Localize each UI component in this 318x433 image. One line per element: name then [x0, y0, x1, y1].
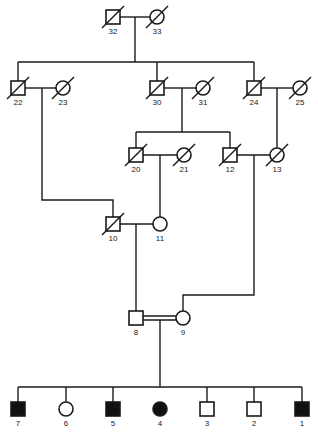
individual-30[interactable]: 30 — [146, 77, 168, 107]
individual-label: 10 — [109, 234, 118, 243]
individual-label: 30 — [153, 98, 162, 107]
individual-32[interactable]: 32 — [102, 6, 124, 36]
individual-label: 3 — [205, 419, 210, 428]
pedigree-lines — [18, 17, 302, 402]
individual-7[interactable]: 7 — [11, 402, 25, 428]
pedigree-chart: 32 33 22 23 30 31 24 25 20 — [0, 0, 318, 433]
female-symbol — [59, 402, 73, 416]
individual-label: 25 — [296, 98, 305, 107]
individual-label: 9 — [181, 328, 186, 337]
individual-21[interactable]: 21 — [173, 144, 195, 174]
individual-label: 6 — [64, 419, 69, 428]
individual-22[interactable]: 22 — [7, 77, 29, 107]
individual-24[interactable]: 24 — [243, 77, 265, 107]
male-symbol — [200, 402, 214, 416]
individual-label: 24 — [250, 98, 259, 107]
individual-1[interactable]: 1 — [295, 402, 309, 428]
individual-20[interactable]: 20 — [125, 144, 147, 174]
individual-9[interactable]: 9 — [176, 311, 190, 337]
individual-label: 31 — [199, 98, 208, 107]
individual-13[interactable]: 13 — [266, 144, 288, 174]
individual-25[interactable]: 25 — [289, 77, 311, 107]
individual-4[interactable]: 4 — [153, 402, 167, 428]
individual-label: 22 — [14, 98, 23, 107]
individual-label: 5 — [111, 419, 116, 428]
descent-line-12-13 — [183, 155, 254, 311]
individual-label: 32 — [109, 27, 118, 36]
individual-label: 8 — [134, 328, 139, 337]
individual-6[interactable]: 6 — [59, 402, 73, 428]
individual-label: 11 — [156, 234, 165, 243]
affected-male-symbol — [11, 402, 25, 416]
affected-female-symbol — [153, 402, 167, 416]
individual-10[interactable]: 10 — [102, 213, 124, 243]
female-symbol — [153, 217, 167, 231]
individual-12[interactable]: 12 — [219, 144, 241, 174]
individual-label: 13 — [273, 165, 282, 174]
male-symbol — [129, 311, 143, 325]
individual-label: 7 — [16, 419, 21, 428]
individual-23[interactable]: 23 — [52, 77, 74, 107]
affected-male-symbol — [106, 402, 120, 416]
individual-label: 4 — [158, 419, 163, 428]
individual-11[interactable]: 11 — [153, 217, 167, 243]
individual-label: 2 — [252, 419, 257, 428]
individual-33[interactable]: 33 — [146, 6, 168, 36]
individual-label: 21 — [180, 165, 189, 174]
individual-label: 20 — [132, 165, 141, 174]
individual-label: 1 — [300, 419, 305, 428]
female-symbol — [176, 311, 190, 325]
individual-2[interactable]: 2 — [247, 402, 261, 428]
individual-label: 12 — [226, 165, 235, 174]
individual-label: 33 — [153, 27, 162, 36]
individual-5[interactable]: 5 — [106, 402, 120, 428]
individual-3[interactable]: 3 — [200, 402, 214, 428]
male-symbol — [247, 402, 261, 416]
individual-label: 23 — [59, 98, 68, 107]
descent-line-22-23 — [42, 88, 113, 217]
affected-male-symbol — [295, 402, 309, 416]
individual-31[interactable]: 31 — [192, 77, 214, 107]
individual-8[interactable]: 8 — [129, 311, 143, 337]
